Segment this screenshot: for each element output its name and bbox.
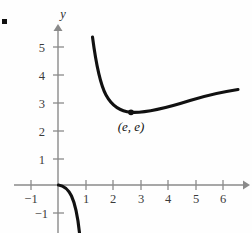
- graph-svg: −1 1 2 3 4 5 6 5 4 3 2 1 −1 y (e, e): [0, 0, 252, 233]
- x-tick-label-6: 6: [220, 192, 226, 206]
- x-tick-label-2: 2: [110, 192, 116, 206]
- y-tick-label-3: 3: [39, 97, 45, 111]
- x-tick-labels: −1 1 2 3 4 5 6: [24, 192, 226, 206]
- figure-canvas: −1 1 2 3 4 5 6 5 4 3 2 1 −1 y (e, e): [0, 0, 252, 233]
- y-axis-arrow-icon: [54, 24, 63, 31]
- x-tick-label-1: 1: [83, 192, 89, 206]
- x-tick-label-3: 3: [138, 192, 144, 206]
- point-label-e-e: (e, e): [118, 119, 145, 134]
- y-tick-label-5: 5: [39, 41, 45, 55]
- y-tick-label-2: 2: [39, 125, 45, 139]
- minimum-point-dot: [128, 109, 134, 115]
- curve-branch-right: [93, 37, 239, 112]
- x-tick-label-4: 4: [165, 192, 172, 206]
- x-axis-arrow-icon: [243, 181, 250, 190]
- y-tick-label-4: 4: [39, 69, 46, 83]
- x-tick-label--1: −1: [24, 192, 37, 206]
- curve-branch-left: [59, 185, 80, 233]
- x-tick-label-5: 5: [193, 192, 199, 206]
- y-axis-label: y: [58, 7, 66, 21]
- y-tick-label-1: 1: [39, 153, 45, 167]
- y-tick-label--1: −1: [35, 207, 48, 221]
